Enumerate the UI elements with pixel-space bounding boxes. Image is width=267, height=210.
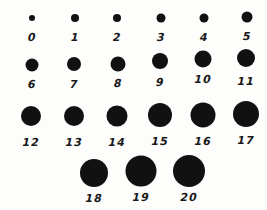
dot-label-3: 3 <box>155 31 166 44</box>
dot-label-18: 18 <box>84 192 104 205</box>
dot-16 <box>191 103 216 128</box>
dot-19 <box>126 156 157 187</box>
dot-5 <box>242 12 253 23</box>
dot-label-16: 16 <box>193 135 213 148</box>
dot-7 <box>67 57 81 71</box>
dot-size-scale: 01234567891011121314151617181920 <box>0 0 267 210</box>
dot-label-0: 0 <box>26 31 37 44</box>
dot-label-12: 12 <box>21 136 41 149</box>
dot-label-6: 6 <box>26 78 37 91</box>
dot-2 <box>113 14 121 22</box>
dot-1 <box>71 14 79 22</box>
dot-label-8: 8 <box>112 77 123 90</box>
dot-label-20: 20 <box>179 191 199 204</box>
dot-15 <box>148 103 172 127</box>
dot-label-5: 5 <box>241 30 252 43</box>
dot-label-10: 10 <box>193 73 213 86</box>
dot-label-2: 2 <box>111 31 122 44</box>
dot-label-14: 14 <box>107 136 127 149</box>
dot-6 <box>26 59 39 72</box>
dot-3 <box>157 14 166 23</box>
dot-label-9: 9 <box>154 76 165 89</box>
dot-label-19: 19 <box>131 191 151 204</box>
dot-label-13: 13 <box>64 136 84 149</box>
dot-17 <box>233 101 259 127</box>
dot-9 <box>152 53 168 69</box>
dot-20 <box>173 155 205 187</box>
dot-label-15: 15 <box>150 135 170 148</box>
dot-label-1: 1 <box>69 31 80 44</box>
dot-14 <box>107 106 128 127</box>
dot-8 <box>111 57 126 72</box>
dot-12 <box>21 106 41 126</box>
dot-11 <box>237 49 255 67</box>
dot-10 <box>195 51 212 68</box>
dot-4 <box>200 14 209 23</box>
dot-18 <box>80 159 108 187</box>
dot-0 <box>29 15 35 21</box>
dot-13 <box>64 106 84 126</box>
dot-label-11: 11 <box>236 75 256 88</box>
dot-label-17: 17 <box>236 134 256 147</box>
dot-label-4: 4 <box>198 31 209 44</box>
dot-label-7: 7 <box>68 78 79 91</box>
